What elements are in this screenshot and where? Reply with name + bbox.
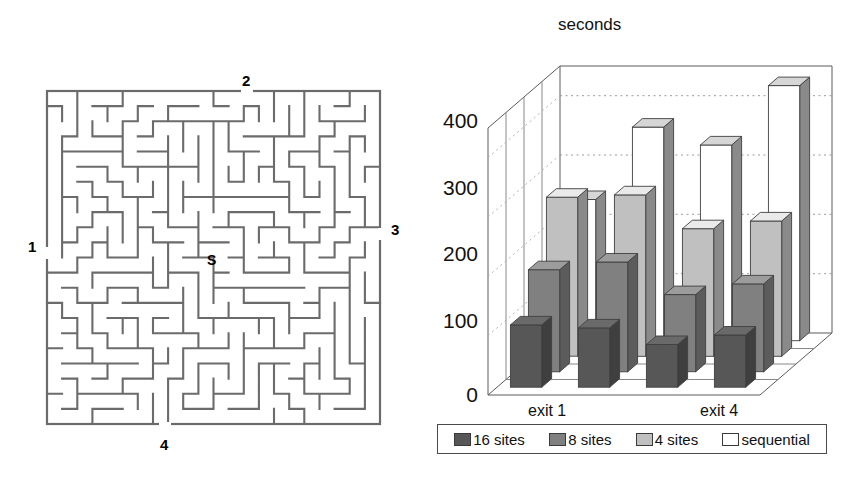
xtick-exit-1: exit 1 [528, 402, 566, 419]
bar-front-face [578, 328, 609, 387]
bar-side-face [746, 327, 756, 388]
xtick-exit-4: exit 4 [700, 402, 738, 419]
legend-swatch-sequential [722, 433, 739, 446]
legend-label-16-sites: 16 sites [473, 431, 525, 448]
figure-root: 1 2 3 4 S 400 300 200 100 0 exit 1 [0, 0, 860, 485]
legend-swatch-8-sites [549, 433, 566, 446]
ytick-100: 100 [443, 309, 478, 332]
bar-16-sites-exit-2 [578, 319, 619, 387]
legend-item-4-sites[interactable]: 4 sites [636, 431, 698, 448]
bar-front-face [646, 345, 677, 388]
ytick-0: 0 [466, 383, 478, 406]
ytick-300: 300 [443, 176, 478, 199]
maze-exit-label-1: 1 [28, 239, 36, 254]
maze-exit-label-3: 3 [391, 222, 399, 237]
chart-title: seconds [558, 15, 621, 34]
legend-item-16-sites[interactable]: 16 sites [454, 431, 525, 448]
bar-chart-3d: 400 300 200 100 0 exit 1 exit 4 seconds [430, 0, 860, 485]
bar-side-face [764, 275, 774, 371]
bar-side-face [610, 319, 620, 387]
legend-label-sequential: sequential [741, 431, 809, 448]
bar-side-face [646, 186, 656, 356]
bar-side-face [560, 261, 570, 372]
chart-legend: 16 sites 8 sites 4 sites sequential [437, 424, 827, 454]
chart-panel: 400 300 200 100 0 exit 1 exit 4 seconds … [430, 0, 860, 485]
maze-panel: 1 2 3 4 S [0, 0, 430, 485]
legend-item-sequential[interactable]: sequential [722, 431, 809, 448]
ytick-400: 400 [443, 109, 478, 132]
legend-label-4-sites: 4 sites [655, 431, 698, 448]
ytick-200: 200 [443, 242, 478, 265]
legend-item-8-sites[interactable]: 8 sites [549, 431, 611, 448]
bar-side-face [628, 254, 638, 372]
maze-exit-label-2: 2 [242, 73, 250, 88]
legend-swatch-4-sites [636, 433, 653, 446]
bar-side-face [782, 212, 792, 356]
chart-bars [510, 77, 809, 387]
legend-swatch-16-sites [454, 433, 471, 446]
bar-16-sites-exit-1 [510, 316, 551, 387]
legend-label-8-sites: 8 sites [568, 431, 611, 448]
bar-side-face [696, 286, 706, 372]
bar-front-face [714, 335, 745, 387]
bar-16-sites-exit-3 [646, 336, 687, 387]
bar-side-face [542, 316, 552, 387]
maze-exit-label-4: 4 [160, 437, 168, 452]
bar-front-face [510, 325, 541, 387]
bar-side-face [800, 77, 810, 341]
maze-svg [0, 0, 430, 485]
maze-start-marker: S [207, 253, 216, 267]
bar-16-sites-exit-4 [714, 327, 755, 388]
